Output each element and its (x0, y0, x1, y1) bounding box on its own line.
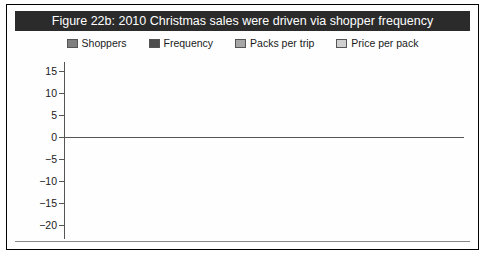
y-axis-tick (59, 71, 64, 72)
plot-area: 151050−5−10−15−20 (7, 5, 480, 251)
y-axis-label: 5 (23, 109, 57, 121)
y-axis-line (64, 62, 65, 239)
zero-baseline (64, 137, 464, 138)
y-axis-label: 10 (23, 87, 57, 99)
y-axis-label: 0 (23, 131, 57, 143)
y-axis-label: −20 (23, 219, 57, 231)
y-axis-tick (59, 181, 64, 182)
y-axis-label: 15 (23, 65, 57, 77)
figure-footer-rule (15, 241, 470, 242)
y-axis-tick (59, 93, 64, 94)
y-axis-label: −15 (23, 197, 57, 209)
y-axis-label: −10 (23, 175, 57, 187)
y-axis-tick (59, 115, 64, 116)
y-axis-tick (59, 159, 64, 160)
figure-container: Figure 22b: 2010 Christmas sales were dr… (6, 4, 479, 250)
y-axis-tick (59, 203, 64, 204)
y-axis-tick (59, 137, 64, 138)
y-axis-tick (59, 225, 64, 226)
y-axis-label: −5 (23, 153, 57, 165)
